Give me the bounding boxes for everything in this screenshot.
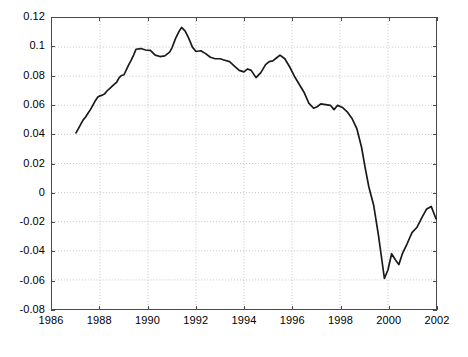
y-tickmark	[51, 105, 55, 106]
y-tickmark	[433, 281, 437, 282]
y-tick-label: 0.08	[23, 69, 45, 81]
x-tickmark	[196, 306, 197, 310]
y-tick-label: 0.04	[23, 127, 45, 139]
x-tickmark	[389, 306, 390, 310]
y-tick-label: -0.06	[19, 274, 45, 286]
y-tickmark	[433, 251, 437, 252]
x-tick-label: 2002	[412, 314, 462, 326]
x-tickmark	[244, 306, 245, 310]
x-tickmark	[292, 306, 293, 310]
y-tickmark	[51, 76, 55, 77]
x-tickmark	[437, 306, 438, 310]
x-tickmark	[389, 17, 390, 21]
x-tickmark	[99, 17, 100, 21]
x-tickmark	[196, 17, 197, 21]
y-tickmark	[433, 134, 437, 135]
x-tickmark	[292, 17, 293, 21]
x-tick-label: 1998	[316, 314, 366, 326]
y-tick-label: 0.1	[29, 39, 45, 51]
y-tickmark	[51, 46, 55, 47]
y-tick-label: 0.06	[23, 98, 45, 110]
x-tick-label: 1992	[171, 314, 221, 326]
y-tick-label: 0.12	[23, 10, 45, 22]
plot-area	[51, 17, 437, 310]
x-tickmark	[51, 306, 52, 310]
y-tickmark	[433, 193, 437, 194]
x-tickmark	[244, 17, 245, 21]
x-tick-label: 1990	[123, 314, 173, 326]
y-tick-label: -0.04	[19, 244, 45, 256]
x-tickmark	[99, 306, 100, 310]
chart-figure: -0.08-0.06-0.04-0.0200.020.040.060.080.1…	[0, 0, 468, 357]
x-tick-label: 1996	[267, 314, 317, 326]
y-tickmark	[433, 310, 437, 311]
x-tickmark	[341, 306, 342, 310]
y-tickmark	[51, 281, 55, 282]
y-tickmark	[51, 164, 55, 165]
y-tick-label: 0.02	[23, 157, 45, 169]
y-tick-label: -0.02	[19, 215, 45, 227]
x-tick-label: 1988	[74, 314, 124, 326]
x-tick-label: 1994	[219, 314, 269, 326]
x-tickmark	[437, 17, 438, 21]
x-tick-label: 1986	[26, 314, 76, 326]
y-tickmark	[433, 222, 437, 223]
x-tickmark	[148, 306, 149, 310]
y-tickmark	[51, 134, 55, 135]
y-tick-label: 0	[39, 186, 45, 198]
x-tick-label: 2000	[364, 314, 414, 326]
y-tickmark	[433, 46, 437, 47]
y-tickmark	[433, 76, 437, 77]
data-series-line	[52, 18, 436, 309]
x-tickmark	[148, 17, 149, 21]
y-tickmark	[51, 222, 55, 223]
y-tickmark	[51, 193, 55, 194]
y-tickmark	[51, 310, 55, 311]
y-tickmark	[433, 164, 437, 165]
x-tickmark	[51, 17, 52, 21]
x-tickmark	[341, 17, 342, 21]
series-path-series-1	[76, 27, 436, 278]
y-tickmark	[433, 105, 437, 106]
y-tickmark	[51, 251, 55, 252]
